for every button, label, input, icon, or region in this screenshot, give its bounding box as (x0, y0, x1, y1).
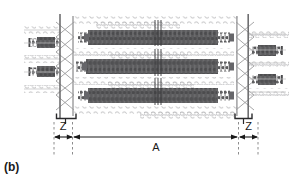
panel-label: (b) (4, 160, 19, 174)
dimension-z-left-label: Z (60, 120, 67, 132)
dimension-z-right-label: Z (245, 120, 252, 132)
boundary-right-bar-inner (236, 16, 237, 116)
boundary-left-bar-inner (72, 16, 73, 116)
external-fiber-left-2 (29, 66, 60, 77)
external-fiber-right-1 (252, 45, 283, 56)
dimension-a-label: A (152, 141, 160, 153)
figure-panel-b: Z A Z (0, 0, 303, 184)
linker-partial-lower (108, 82, 194, 89)
linker-partial-bottom (140, 112, 236, 119)
external-fiber-left-1 (29, 37, 60, 48)
linker-partial-top (96, 22, 180, 29)
external-fiber-right-2 (252, 74, 283, 85)
linker-partial-upper (110, 53, 188, 60)
boundary-left-bar-outer (59, 14, 61, 118)
fiber-row-3 (78, 88, 234, 103)
boundary-right-bar-outer (247, 14, 249, 118)
fiber-row-1 (78, 30, 234, 45)
